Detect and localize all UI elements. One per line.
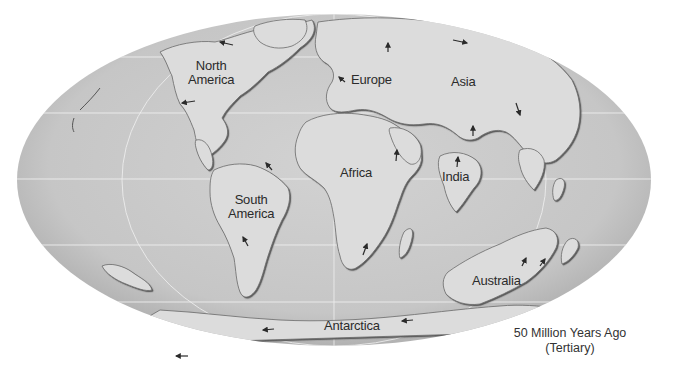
world-map [0, 0, 675, 365]
map-caption: 50 Million Years Ago (Tertiary) [500, 326, 640, 356]
caption-title: 50 Million Years Ago [500, 326, 640, 341]
label-africa: Africa [340, 166, 372, 180]
caption-period: (Tertiary) [500, 341, 640, 356]
label-india: India [442, 170, 469, 184]
label-europe: Europe [351, 73, 392, 87]
label-south-america: South America [228, 193, 274, 221]
label-asia: Asia [451, 75, 476, 89]
label-north-america: North America [188, 59, 234, 87]
label-australia: Australia [472, 274, 521, 288]
label-antarctica: Antarctica [324, 319, 380, 333]
